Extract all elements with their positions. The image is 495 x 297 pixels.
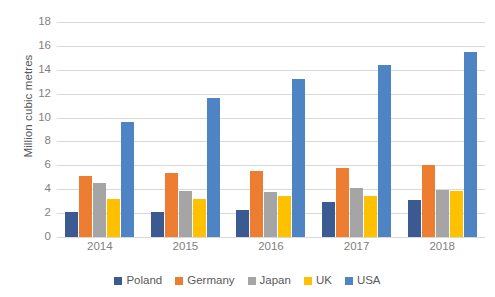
legend-label: Germany <box>187 275 234 287</box>
y-tick-label: 4 <box>21 183 51 195</box>
bars <box>314 22 400 237</box>
legend-item-germany[interactable]: Germany <box>175 275 234 287</box>
bars <box>57 22 143 237</box>
bar-uk-2018[interactable] <box>450 191 463 237</box>
bar-japan-2014[interactable] <box>93 183 106 237</box>
bar-group <box>399 22 485 237</box>
bar-uk-2016[interactable] <box>278 196 291 237</box>
bar-japan-2015[interactable] <box>179 191 192 237</box>
legend-item-uk[interactable]: UK <box>304 275 332 287</box>
bar-usa-2014[interactable] <box>121 122 134 237</box>
bar-usa-2017[interactable] <box>378 65 391 237</box>
legend-swatch-icon <box>175 277 183 285</box>
bar-germany-2017[interactable] <box>336 168 349 237</box>
bar-poland-2015[interactable] <box>151 212 164 237</box>
x-tick-label-2015: 2015 <box>143 240 229 258</box>
y-tick-label: 18 <box>21 16 51 28</box>
legend-swatch-icon <box>114 277 122 285</box>
bar-germany-2014[interactable] <box>79 176 92 238</box>
y-tick-label: 12 <box>21 88 51 100</box>
bar-usa-2015[interactable] <box>207 98 220 237</box>
bar-uk-2014[interactable] <box>107 199 120 237</box>
bar-germany-2015[interactable] <box>165 173 178 238</box>
x-tick-label-2016: 2016 <box>228 240 314 258</box>
x-tick-label-2014: 2014 <box>57 240 143 258</box>
y-axis-tick-labels: 181614121086420 <box>18 22 51 237</box>
y-tick-label: 8 <box>21 135 51 147</box>
legend-label: Japan <box>260 275 291 287</box>
y-tick-label: 2 <box>21 207 51 219</box>
bar-germany-2016[interactable] <box>250 171 263 237</box>
y-tick-label: 0 <box>21 231 51 243</box>
legend-swatch-icon <box>304 277 312 285</box>
bars <box>228 22 314 237</box>
legend-swatch-icon <box>345 277 353 285</box>
bar-poland-2016[interactable] <box>236 210 249 237</box>
x-tick-label-2017: 2017 <box>314 240 400 258</box>
y-tick-label: 6 <box>21 159 51 171</box>
bar-group <box>314 22 400 237</box>
bar-japan-2016[interactable] <box>264 192 277 237</box>
bar-usa-2018[interactable] <box>464 52 477 237</box>
legend-label: USA <box>357 275 381 287</box>
bar-poland-2018[interactable] <box>408 200 421 237</box>
y-tick-label: 14 <box>21 64 51 76</box>
bar-usa-2016[interactable] <box>292 79 305 237</box>
bar-germany-2018[interactable] <box>422 165 435 237</box>
gridline <box>57 237 485 238</box>
bar-uk-2015[interactable] <box>193 199 206 237</box>
bars <box>399 22 485 237</box>
bar-group <box>228 22 314 237</box>
legend-item-japan[interactable]: Japan <box>248 275 291 287</box>
legend-label: UK <box>316 275 332 287</box>
bar-japan-2017[interactable] <box>350 188 363 237</box>
x-tick-label-2018: 2018 <box>399 240 485 258</box>
bar-poland-2014[interactable] <box>65 212 78 237</box>
bar-groups <box>57 22 485 237</box>
bar-group <box>57 22 143 237</box>
legend-label: Poland <box>126 275 162 287</box>
legend-item-usa[interactable]: USA <box>345 275 381 287</box>
x-axis-tick-labels: 20142015201620172018 <box>57 240 485 258</box>
bar-poland-2017[interactable] <box>322 202 335 237</box>
y-tick-label: 16 <box>21 40 51 52</box>
legend-item-poland[interactable]: Poland <box>114 275 162 287</box>
bars <box>143 22 229 237</box>
bar-uk-2017[interactable] <box>364 196 377 237</box>
y-tick-label: 10 <box>21 112 51 124</box>
bar-japan-2018[interactable] <box>436 190 449 237</box>
plot-area <box>57 22 485 237</box>
bar-chart: Million cubic metres 181614121086420 201… <box>0 0 495 297</box>
bar-group <box>143 22 229 237</box>
chart-legend: PolandGermanyJapanUKUSA <box>0 272 495 290</box>
legend-swatch-icon <box>248 277 256 285</box>
